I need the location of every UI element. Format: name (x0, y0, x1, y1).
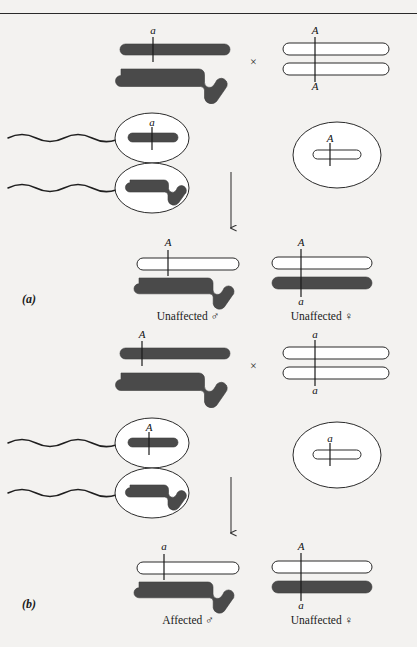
panel-a-sperm-x (8, 113, 189, 163)
panel-a-father-x-allele: a (144, 24, 162, 36)
sperm-tail (8, 440, 116, 447)
panel-a-offspring-male-karyotype (134, 250, 239, 309)
chromosome-x-dark (272, 581, 372, 593)
panel-a-egg-allele: A (321, 132, 339, 144)
chromosome-x-white-1 (283, 347, 389, 359)
chromosome-y-dark (134, 582, 234, 613)
diagram-canvas (0, 0, 417, 647)
panel-b-offspring-female-top-allele: A (292, 540, 310, 552)
panel-a-offspring-female-bottom-allele: a (292, 295, 310, 307)
panel-b-father-x-allele: A (133, 328, 151, 340)
genetics-inheritance-figure: (a) × a A A a A A A a Unaffected ♂ Unaff… (0, 0, 417, 647)
chromosome-x-white-2 (283, 367, 389, 379)
header-rule (0, 13, 417, 14)
sperm-tail (8, 185, 116, 192)
chromosome-y-dark (125, 180, 186, 205)
panel-a-father-karyotype (116, 37, 231, 104)
panel-b-offspring-female-bottom-allele: a (292, 599, 310, 611)
sperm-head (115, 468, 189, 518)
chromosome-y-dark (125, 485, 186, 510)
panel-b-father-karyotype (116, 341, 231, 408)
chromosome-y-dark (134, 278, 234, 309)
panel-a-offspring-female-caption: Unaffected ♀ (252, 310, 392, 322)
chromosome-x-white (313, 150, 361, 159)
panel-a-mother-karyotype (283, 37, 389, 82)
panel-b-offspring-female-caption: Unaffected ♀ (252, 614, 392, 626)
chromosome-x-dark (128, 438, 178, 447)
chromosome-x-dark (120, 348, 230, 359)
sperm-head (115, 163, 189, 213)
panel-a-sperm-x-allele: a (143, 116, 161, 128)
panel-a-offspring-male-caption: Unaffected ♂ (118, 310, 258, 322)
panel-b-mother-x2-allele: a (306, 384, 324, 396)
panel-a-offspring-female-karyotype (272, 249, 372, 297)
panel-a-mother-x1-allele: A (306, 24, 324, 36)
panel-b-sperm-x-allele: A (140, 421, 158, 433)
sperm-tail (8, 490, 116, 497)
chromosome-x-dark (272, 277, 372, 289)
panel-a-offspring-female-top-allele: A (292, 236, 310, 248)
chromosome-y-dark (116, 373, 228, 408)
panel-b-mother-x1-allele: a (306, 328, 324, 340)
panel-b-offspring-male-top-allele: a (155, 540, 173, 552)
panel-a-sperm-y (8, 163, 189, 213)
chromosome-x-white (137, 562, 239, 574)
panel-b-egg-allele: a (321, 432, 339, 444)
panel-b-offspring-female-karyotype (272, 553, 372, 601)
chromosome-x-white-1 (283, 43, 389, 55)
chromosome-x-white-2 (283, 63, 389, 75)
panel-a-offspring-male-top-allele: A (159, 236, 177, 248)
chromosome-x-dark (128, 133, 178, 142)
panel-b-sperm-y (8, 468, 189, 518)
chromosome-x-dark (120, 44, 230, 55)
chromosome-x-white (272, 257, 372, 269)
sperm-tail (8, 135, 116, 142)
chromosome-x-white (313, 450, 361, 459)
panel-b-mother-karyotype (283, 340, 389, 386)
panel-a-cross-symbol: × (250, 55, 257, 70)
panel-b-sperm-x (8, 418, 189, 468)
panel-b-offspring-male-caption: Affected ♂ (118, 614, 258, 626)
panel-b-offspring-male-karyotype (134, 554, 239, 613)
panel-b-cross-symbol: × (250, 359, 257, 374)
chromosome-y-dark (116, 69, 228, 104)
chromosome-x-white (137, 258, 239, 270)
panel-a-mother-x2-allele: A (306, 80, 324, 92)
panel-b-label: (b) (22, 597, 36, 612)
panel-a-label: (a) (22, 292, 36, 307)
chromosome-x-white (272, 561, 372, 573)
